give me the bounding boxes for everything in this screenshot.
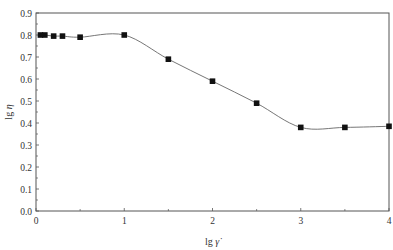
y-tick-label: 0.8 [20, 31, 32, 41]
y-axis-label-symbol: η [3, 104, 14, 109]
data-point-marker [166, 56, 172, 62]
y-tick-label: 0.5 [20, 97, 32, 107]
data-point-marker [77, 34, 83, 40]
x-tick-label: 0 [34, 216, 39, 226]
x-axis-label-symbol: γ̇ [215, 236, 222, 247]
data-markers [38, 32, 392, 130]
data-point-marker [386, 124, 392, 130]
y-tick-label: 0.0 [20, 207, 32, 217]
x-axis-label-text: lg [205, 236, 213, 247]
x-tick-label: 2 [210, 216, 215, 226]
y-tick-label: 0.4 [20, 119, 32, 129]
y-tick-label: 0.2 [20, 163, 32, 173]
y-tick-label: 0.1 [20, 185, 32, 195]
data-point-marker [42, 32, 48, 38]
data-point-marker [210, 78, 216, 84]
data-point-marker [60, 33, 66, 39]
data-point-marker [51, 33, 57, 39]
y-tick-label: 0.9 [20, 9, 32, 19]
x-axis-label: lg γ̇ [205, 236, 222, 247]
y-tick-label: 0.3 [20, 141, 32, 151]
data-point-marker [254, 100, 260, 106]
y-axis-label-text: lg [3, 112, 14, 120]
data-point-marker [298, 125, 304, 131]
data-point-marker [121, 32, 127, 38]
x-tick-label: 3 [298, 216, 303, 226]
y-tick-label: 0.6 [20, 75, 32, 85]
plot-frame [36, 13, 389, 211]
x-tick-label: 1 [122, 216, 127, 226]
y-tick-label: 0.7 [20, 53, 32, 63]
y-axis-label: lg η [3, 104, 14, 119]
data-point-marker [342, 125, 348, 131]
chart: 0.00.10.20.30.40.50.60.70.80.9 01234 lg … [0, 0, 393, 250]
x-tick-label: 4 [387, 216, 392, 226]
